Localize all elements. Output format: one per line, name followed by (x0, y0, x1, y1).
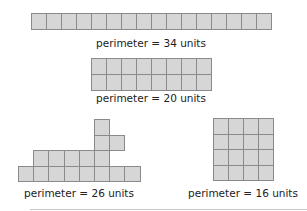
unit-square (76, 13, 92, 30)
unit-square (91, 74, 107, 91)
unit-square (136, 13, 152, 30)
unit-square (151, 74, 167, 91)
unit-square (151, 13, 167, 30)
unit-square (228, 118, 244, 135)
unit-square (94, 166, 110, 183)
unit-square (48, 150, 64, 167)
unit-square (136, 74, 152, 91)
unit-square (228, 165, 244, 182)
unit-square (121, 74, 137, 91)
unit-square (241, 13, 257, 30)
unit-square (166, 13, 182, 30)
unit-square (196, 58, 212, 75)
unit-square (109, 135, 125, 152)
unit-square (166, 74, 182, 91)
unit-square (243, 165, 259, 182)
unit-square (33, 166, 49, 183)
unit-square (91, 13, 107, 30)
unit-square (196, 74, 212, 91)
unit-square (228, 134, 244, 151)
unit-square (106, 74, 122, 91)
unit-square (213, 118, 229, 135)
unit-square (181, 74, 197, 91)
unit-square (258, 149, 274, 166)
unit-square (213, 134, 229, 151)
unit-square (79, 166, 95, 183)
unit-square (106, 13, 122, 30)
unit-square (258, 118, 274, 135)
unit-square (121, 13, 137, 30)
label-rect: perimeter = 20 units (96, 92, 206, 104)
unit-square (79, 150, 95, 167)
unit-square (109, 166, 125, 183)
unit-square (181, 13, 197, 30)
unit-square (33, 150, 49, 167)
unit-square (226, 13, 242, 30)
unit-square (243, 118, 259, 135)
unit-square (48, 166, 64, 183)
unit-square (61, 13, 77, 30)
unit-square (258, 134, 274, 151)
unit-square (256, 13, 272, 30)
label-strip: perimeter = 34 units (96, 37, 206, 49)
unit-square (166, 58, 182, 75)
unit-square (181, 58, 197, 75)
label-irregular: perimeter = 26 units (24, 187, 134, 199)
divider-rule (30, 209, 307, 210)
unit-square (258, 165, 274, 182)
unit-square (64, 166, 80, 183)
unit-square (106, 58, 122, 75)
unit-square (124, 166, 140, 183)
unit-square (243, 149, 259, 166)
unit-square (94, 119, 110, 136)
unit-square (121, 58, 137, 75)
unit-square (136, 58, 152, 75)
unit-square (213, 165, 229, 182)
unit-square (151, 58, 167, 75)
unit-square (64, 150, 80, 167)
unit-square (243, 134, 259, 151)
unit-square (196, 13, 212, 30)
label-square: perimeter = 16 units (188, 187, 298, 199)
unit-square (228, 149, 244, 166)
unit-square (94, 150, 110, 167)
unit-square (213, 149, 229, 166)
unit-square (94, 135, 110, 152)
unit-square (31, 13, 47, 30)
unit-square (211, 13, 227, 30)
unit-square (91, 58, 107, 75)
unit-square (18, 166, 34, 183)
unit-square (46, 13, 62, 30)
